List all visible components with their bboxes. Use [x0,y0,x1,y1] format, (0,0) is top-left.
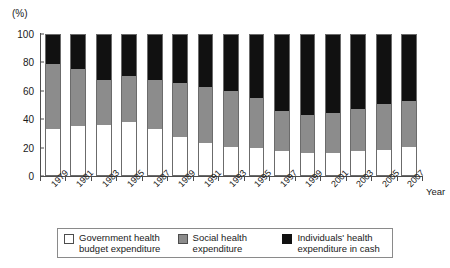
bar-segment-individual [122,35,136,76]
stacked-bar[interactable] [350,34,366,176]
bar-segment-social [97,80,111,125]
bar-segment-individual [250,35,264,98]
bar-segment-social [326,113,340,152]
bar-segment-individual [275,35,289,111]
bar-segment-government [46,129,60,175]
bar-slot [371,34,396,176]
bar-segment-government [97,125,111,175]
bar-segment-government [71,126,85,175]
bar-segment-social [148,80,162,129]
bar-segment-social [173,83,187,138]
stacked-bar[interactable] [223,34,239,176]
bar-slot [244,34,269,176]
bar-segment-individual [173,35,187,83]
bar-segment-social [71,69,85,126]
y-axis-tick-label: 100 [0,29,40,40]
stacked-bar[interactable] [249,34,265,176]
bar-segment-government [224,147,238,175]
bar-slot [167,34,192,176]
bar-segment-individual [402,35,416,101]
chart-legend: Government health budget expenditureSoci… [57,228,393,258]
bar-segment-individual [301,35,315,115]
plot-area [40,34,422,176]
legend-swatch-white [64,234,74,244]
x-axis-tick-labels: 1979198119831985198719891991199319951997… [40,182,422,216]
bar-slot [295,34,320,176]
bar-slot [116,34,141,176]
legend-swatch-gray [178,234,188,244]
x-axis-tick-mark [40,176,41,181]
bar-segment-social [351,109,365,151]
bar-segment-individual [46,35,60,64]
bar-segment-individual [148,35,162,80]
bar-slot [218,34,243,176]
legend-item[interactable]: Government health budget expenditure [64,232,168,254]
bar-slot [65,34,90,176]
legend-swatch-black [282,234,292,244]
bar-segment-individual [351,35,365,109]
bar-segment-government [173,137,187,175]
bar-segment-social [46,64,60,128]
bar-segment-government [402,147,416,175]
bar-segment-government [148,129,162,175]
bar-slot [346,34,371,176]
bar-segment-social [199,87,213,143]
bar-slot [397,34,422,176]
bar-segment-social [122,76,136,122]
bar-group [40,34,422,176]
stacked-bar[interactable] [45,34,61,176]
bar-segment-individual [199,35,213,87]
bar-segment-individual [71,35,85,69]
stacked-bar[interactable] [172,34,188,176]
bar-segment-individual [97,35,111,80]
stacked-bar[interactable] [274,34,290,176]
stacked-bar-chart: (%) 100806040200 19791981198319851987198… [0,0,450,268]
y-axis-tick-label: 60 [0,85,40,96]
y-axis-tick-label: 80 [0,57,40,68]
stacked-bar[interactable] [300,34,316,176]
bar-slot [269,34,294,176]
y-axis-unit-label: (%) [12,8,28,19]
stacked-bar[interactable] [70,34,86,176]
stacked-bar[interactable] [96,34,112,176]
legend-item[interactable]: Social health expenditure [178,232,273,254]
bar-segment-social [402,101,416,147]
legend-label: Individuals' health expenditure in cash [297,232,386,254]
bar-segment-individual [326,35,340,113]
x-axis-title: Year [426,186,445,197]
bar-segment-government [122,122,136,175]
bar-slot [320,34,345,176]
bar-segment-individual [224,35,238,91]
bar-slot [91,34,116,176]
stacked-bar[interactable] [121,34,137,176]
legend-label: Social health expenditure [193,232,273,254]
stacked-bar[interactable] [401,34,417,176]
bar-segment-government [199,143,213,175]
legend-item[interactable]: Individuals' health expenditure in cash [282,232,386,254]
bar-segment-social [224,91,238,147]
stacked-bar[interactable] [147,34,163,176]
stacked-bar[interactable] [198,34,214,176]
stacked-bar[interactable] [376,34,392,176]
y-axis-tick-label: 40 [0,114,40,125]
bar-segment-government [377,150,391,175]
bar-segment-social [250,98,264,148]
y-axis-tick-label: 0 [0,171,40,182]
y-axis-tick-label: 20 [0,142,40,153]
bar-segment-individual [377,35,391,104]
legend-label: Government health budget expenditure [79,232,168,254]
bar-segment-social [275,111,289,152]
bar-slot [193,34,218,176]
bar-slot [40,34,65,176]
bar-segment-social [301,115,315,153]
stacked-bar[interactable] [325,34,341,176]
bar-segment-social [377,104,391,150]
bar-slot [142,34,167,176]
